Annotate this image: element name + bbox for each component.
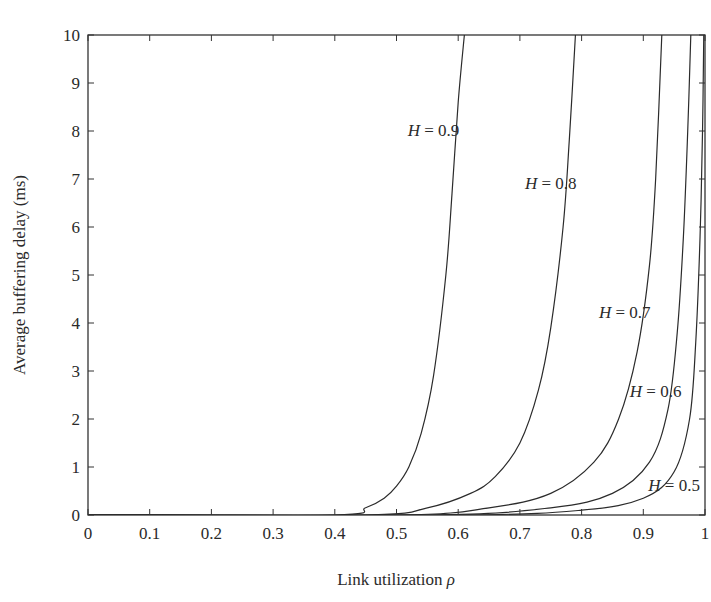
curve-label-h-09: H = 0.9 xyxy=(407,121,460,140)
plot-area xyxy=(88,35,705,515)
curve-label-h-07: H = 0.7 xyxy=(598,303,651,322)
y-tick-label: 8 xyxy=(72,122,81,141)
curve-h-06 xyxy=(88,35,691,516)
x-axis-title-text: Link utilization xyxy=(337,570,447,589)
curve-label-h-05: H = 0.5 xyxy=(647,476,700,495)
y-axis-title: Average buffering delay (ms) xyxy=(10,175,29,375)
y-tick-label: 10 xyxy=(63,26,80,45)
x-tick-label: 0.6 xyxy=(448,524,469,543)
y-tick-label: 4 xyxy=(72,314,81,333)
y-tick-label: 3 xyxy=(72,362,81,381)
x-tick-label: 0.2 xyxy=(201,524,222,543)
x-tick-label: 0.3 xyxy=(262,524,283,543)
x-tick-label: 0 xyxy=(84,524,93,543)
plot-frame xyxy=(88,35,705,515)
y-tick-label: 9 xyxy=(72,74,81,93)
curve-h-09 xyxy=(88,35,464,516)
y-tick-label: 2 xyxy=(72,410,81,429)
curve-h-05 xyxy=(88,35,704,515)
y-axis: 012345678910 xyxy=(63,26,705,525)
x-tick-label: 0.9 xyxy=(633,524,654,543)
curve-label-h-08: H = 0.8 xyxy=(524,174,577,193)
y-tick-label: 7 xyxy=(72,170,81,189)
rho-symbol: ρ xyxy=(446,570,455,589)
y-tick-label: 0 xyxy=(72,506,81,525)
curve-h-07 xyxy=(88,35,662,516)
x-axis: 00.10.20.30.40.50.60.70.80.91 xyxy=(84,35,710,543)
x-axis-title: Link utilization ρ xyxy=(337,570,455,589)
x-tick-label: 0.7 xyxy=(509,524,531,543)
curves xyxy=(88,35,704,516)
curve-h-08 xyxy=(88,35,575,516)
chart: 00.10.20.30.40.50.60.70.80.91 0123456789… xyxy=(0,0,711,602)
x-tick-label: 0.8 xyxy=(571,524,592,543)
y-tick-label: 5 xyxy=(72,266,81,285)
x-tick-label: 1 xyxy=(701,524,710,543)
y-tick-label: 1 xyxy=(72,458,81,477)
curve-label-h-06: H = 0.6 xyxy=(629,382,682,401)
x-tick-label: 0.5 xyxy=(386,524,407,543)
x-tick-label: 0.4 xyxy=(324,524,346,543)
x-tick-label: 0.1 xyxy=(139,524,160,543)
y-tick-label: 6 xyxy=(72,218,81,237)
